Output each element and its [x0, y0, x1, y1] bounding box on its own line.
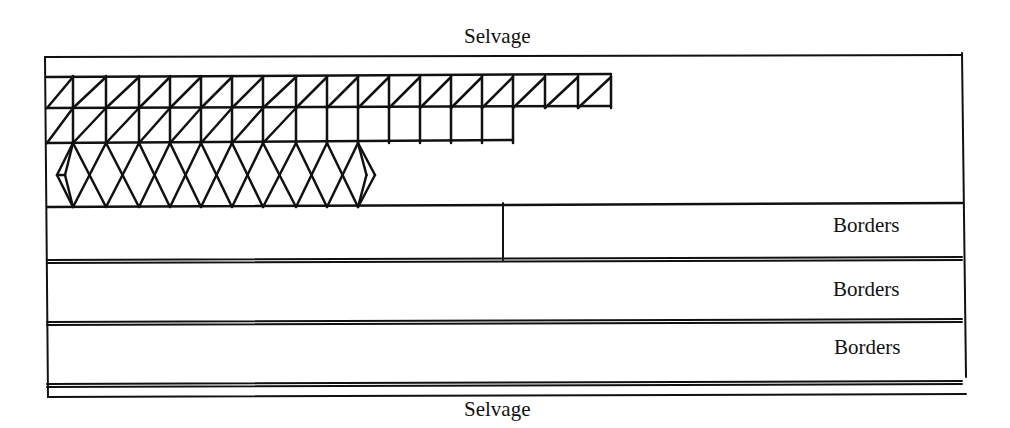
grid-row2-diagonal: [47, 108, 73, 143]
diamond-edge: [312, 143, 328, 175]
diamond-edge: [106, 143, 123, 175]
grid-row1-diagonal: [201, 77, 232, 108]
border-label-2: Borders: [833, 279, 900, 300]
diamond-edge: [186, 143, 202, 175]
diamond-edge: [139, 143, 155, 175]
diamond-row-bottom-line: [47, 203, 962, 207]
diamond-edge: [170, 143, 186, 175]
border-bands: [47, 203, 962, 387]
grid-row2-diagonal: [139, 108, 170, 143]
diamond-edge: [123, 175, 140, 207]
border-label-1: Borders: [833, 215, 900, 236]
diamond-edge: [248, 175, 264, 207]
diamond-edge: [232, 175, 248, 207]
grid-row2-diagonal: [106, 108, 139, 143]
diamond-pattern: [47, 143, 962, 207]
diamond-edge: [280, 175, 297, 207]
grid-row1-diagonal: [139, 77, 170, 108]
grid-row1-diagonal: [263, 77, 296, 108]
grid-row1-diagonal: [389, 77, 420, 108]
grid-row2-diagonal: [170, 108, 201, 143]
diamond-edge: [312, 175, 328, 207]
diamond-edge: [217, 143, 233, 175]
diamond-edge: [90, 143, 107, 175]
grid-row1-diagonal: [578, 77, 611, 108]
grid-row1-diagonal: [358, 77, 389, 108]
diamond-edge: [263, 175, 280, 207]
diamond-edge: [280, 143, 297, 175]
grid-row2-diagonal: [263, 108, 296, 143]
grid-row2-diagonal: [232, 108, 263, 143]
grid-row1-diagonal: [296, 77, 327, 108]
outer-frame: [45, 53, 966, 397]
grid-row2-diagonal: [201, 108, 232, 143]
grid-row1-diagonal: [482, 77, 513, 108]
grid-row2-bottom: [47, 140, 513, 143]
grid-row1-diagonal: [420, 77, 451, 108]
diamond-edge: [155, 143, 171, 175]
diamond-edge: [343, 143, 359, 175]
grid-row2-diagonal: [73, 108, 106, 143]
diamond-edge: [106, 175, 123, 207]
diamond-edge: [155, 175, 171, 207]
diamond-edge: [217, 175, 233, 207]
diamond-edge: [201, 143, 217, 175]
diamond-edge: [201, 175, 217, 207]
grid-row1-diagonal: [232, 77, 263, 108]
grid-row1-diagonal: [73, 77, 106, 108]
twill-grid-pattern: [47, 74, 611, 143]
grid-row1-diagonal: [106, 77, 139, 108]
diamond-edge: [73, 143, 90, 175]
diamond-edge: [123, 143, 140, 175]
selvage-top-label: Selvage: [464, 26, 530, 47]
grid-row1-diagonal: [327, 77, 358, 108]
diamond-edge: [232, 143, 248, 175]
diamond-edge: [296, 175, 312, 207]
diamond-edge: [139, 175, 155, 207]
grid-row1-diagonal: [47, 77, 73, 108]
diamond-edge: [73, 175, 90, 207]
frame-top-line: [45, 55, 962, 57]
diamond-edge: [170, 175, 186, 207]
grid-row1-diagonal: [451, 77, 482, 108]
diamond-edge: [263, 143, 280, 175]
border-label-3: Borders: [834, 337, 901, 358]
diamond-edge: [343, 175, 359, 207]
grid-row1-diagonal: [170, 77, 201, 108]
grid-row1-top: [47, 74, 611, 77]
diamond-edge: [248, 143, 264, 175]
diamond-edge: [186, 175, 202, 207]
selvage-bottom-label: Selvage: [464, 399, 530, 420]
frame-right-line: [962, 53, 966, 377]
grid-row1-diagonal: [545, 77, 578, 108]
diamond-edge: [296, 143, 312, 175]
diamond-edge: [327, 143, 343, 175]
diamond-edge: [327, 175, 343, 207]
diamond-edge: [90, 175, 107, 207]
grid-row1-diagonal: [513, 77, 545, 108]
